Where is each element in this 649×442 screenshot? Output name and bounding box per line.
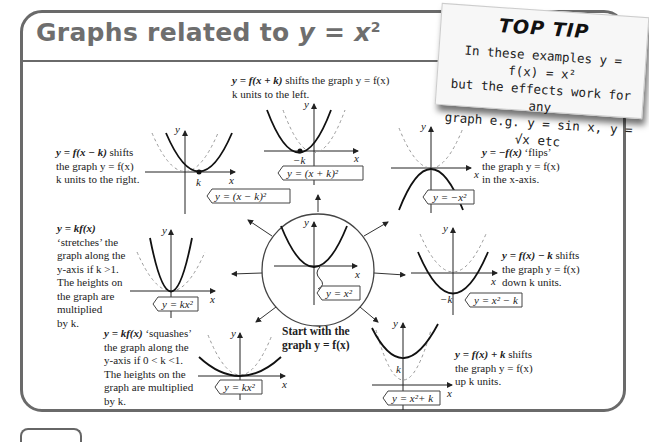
svg-text:y = −x²: y = −x² (432, 191, 467, 203)
svg-text:x: x (281, 378, 287, 390)
graph-shift-right: k y x y = (x − k)² (145, 123, 290, 214)
x-axis-label: x (354, 268, 360, 280)
svg-text:k: k (196, 176, 202, 188)
svg-text:y = kx²: y = kx² (223, 381, 256, 393)
svg-text:−k: −k (293, 154, 306, 166)
svg-text:y = (x − k)²: y = (x − k)² (214, 190, 267, 203)
desc-shift-down: y = f(x) − k shifts the graph y = f(x) d… (502, 249, 612, 290)
svg-text:x: x (490, 275, 496, 287)
svg-text:y: y (174, 123, 180, 135)
svg-text:y: y (392, 317, 398, 329)
svg-text:y = x² − k: y = x² − k (473, 294, 519, 306)
desc-squash: y = kf(x) ‘squashes’ the graph along the… (104, 327, 214, 408)
y-axis-label: y (303, 216, 309, 228)
svg-text:x: x (473, 168, 479, 180)
top-tip-heading: TOP TIP (441, 10, 648, 46)
desc-stretch: y = kf(x) ‘stretches’ the graph along th… (57, 222, 137, 330)
svg-text:x: x (209, 293, 215, 305)
svg-text:y = kx²: y = kx² (161, 298, 194, 310)
center-caption: Start with the graph y = f(x) (282, 324, 350, 352)
svg-text:y = (x + k)²: y = (x + k)² (286, 167, 339, 180)
svg-text:x: x (353, 152, 359, 164)
svg-text:y = x²+ k: y = x²+ k (391, 392, 434, 404)
svg-text:y: y (442, 222, 448, 234)
svg-text:y: y (420, 120, 426, 132)
graph-shift-up: k y x y = x²+ k (372, 317, 452, 410)
svg-text:−k: −k (440, 293, 453, 305)
svg-text:y: y (230, 327, 236, 339)
page-tab (20, 428, 82, 442)
top-tip-body: In these examples y = f(x) = x² but the … (441, 40, 640, 155)
top-tip-note: TOP TIP In these examples y = f(x) = x² … (435, 3, 649, 119)
svg-text:x: x (228, 174, 234, 186)
desc-shift-right: y = f(x − k) shifts the graph y = f(x) k… (56, 146, 156, 187)
svg-text:y: y (161, 224, 167, 236)
desc-flip: y = −f(x) ‘flips’ the graph y = f(x) in … (482, 146, 592, 187)
svg-text:x: x (446, 387, 452, 399)
center-graph: y x y = x² (232, 195, 405, 326)
svg-text:y = x²: y = x² (325, 287, 353, 299)
svg-text:k: k (396, 363, 402, 375)
desc-shift-up: y = f(x) + k shifts the graph y = f(x) u… (455, 348, 565, 389)
graph-stretch: y x y = kx² (130, 224, 215, 318)
graph-shift-left: −k y x y = (x + k)² (264, 98, 363, 185)
